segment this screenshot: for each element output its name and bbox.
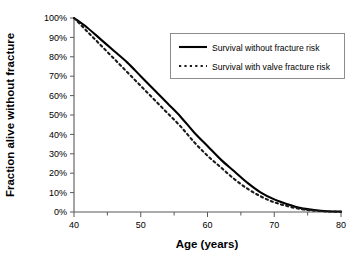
y-tick-label-80: 80% (49, 52, 67, 62)
y-tick-label-60: 60% (49, 91, 67, 101)
x-tick-label-40: 40 (69, 220, 79, 230)
legend-label-0: Survival without fracture risk (212, 43, 320, 53)
y-tick-label-50: 50% (49, 110, 67, 120)
survival-line-chart: 0%10%20%30%40%50%60%70%80%90%100% 405060… (0, 0, 360, 259)
y-axis-tick-labels: 0%10%20%30%40%50%60%70%80%90%100% (44, 13, 67, 217)
y-tick-label-20: 20% (49, 168, 67, 178)
legend-box (171, 34, 345, 79)
x-axis-ticks (74, 212, 341, 217)
y-tick-label-0: 0% (54, 207, 67, 217)
y-tick-label-40: 40% (49, 130, 67, 140)
chart-legend: Survival without fracture risk Survival … (171, 34, 345, 79)
legend-label-1: Survival with valve fracture risk (212, 62, 331, 72)
y-tick-label-10: 10% (49, 188, 67, 198)
y-axis-title: Fraction alive without fracture (4, 33, 16, 197)
y-tick-label-70: 70% (49, 71, 67, 81)
y-tick-label-100: 100% (44, 13, 67, 23)
y-axis-ticks (70, 18, 74, 212)
y-tick-label-30: 30% (49, 149, 67, 159)
x-tick-label-80: 80 (336, 220, 346, 230)
x-axis-tick-labels: 4050607080 (69, 220, 346, 230)
chart-figure: 0%10%20%30%40%50%60%70%80%90%100% 405060… (0, 0, 360, 259)
x-tick-label-70: 70 (269, 220, 279, 230)
x-tick-label-60: 60 (202, 220, 212, 230)
x-axis-title: Age (years) (176, 238, 239, 250)
y-tick-label-90: 90% (49, 33, 67, 43)
x-tick-label-50: 50 (136, 220, 146, 230)
